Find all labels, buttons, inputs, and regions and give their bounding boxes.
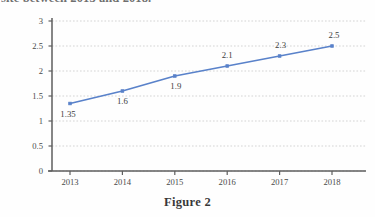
data-point-marker <box>121 90 124 93</box>
y-tick-label: 0.5 <box>21 141 43 151</box>
y-tick-label: 1.5 <box>21 91 43 101</box>
series-line <box>70 46 332 104</box>
figure-2-chart: Website visits (billions) 00.511.522.532… <box>0 0 375 217</box>
data-point-marker <box>174 75 177 78</box>
x-tick-label: 2015 <box>158 177 192 187</box>
x-tick-label: 2018 <box>315 177 349 187</box>
data-point-label: 1.9 <box>161 81 191 91</box>
x-tick-label: 2013 <box>53 177 87 187</box>
x-tick-label: 2014 <box>105 177 139 187</box>
y-tick-label: 2 <box>21 66 43 76</box>
y-tick-label: 2.5 <box>21 41 43 51</box>
data-point-label: 2.3 <box>266 40 296 50</box>
data-series-line <box>70 46 332 104</box>
data-point-label: 2.1 <box>212 50 242 60</box>
data-point-marker <box>226 65 229 68</box>
data-point-marker <box>331 45 334 48</box>
y-tick-label: 0 <box>21 166 43 176</box>
axis-lines <box>48 18 366 171</box>
data-point-label: 1.35 <box>53 109 83 119</box>
figure-caption: Figure 2 <box>0 195 375 210</box>
data-point-label: 1.6 <box>107 96 137 106</box>
data-point-marker <box>69 102 72 105</box>
y-tick-label: 1 <box>21 116 43 126</box>
x-tick-label: 2016 <box>210 177 244 187</box>
y-tick-label: 3 <box>21 16 43 26</box>
data-point-label: 2.5 <box>319 30 349 40</box>
x-tick-label: 2017 <box>263 177 297 187</box>
data-point-marker <box>278 55 281 58</box>
